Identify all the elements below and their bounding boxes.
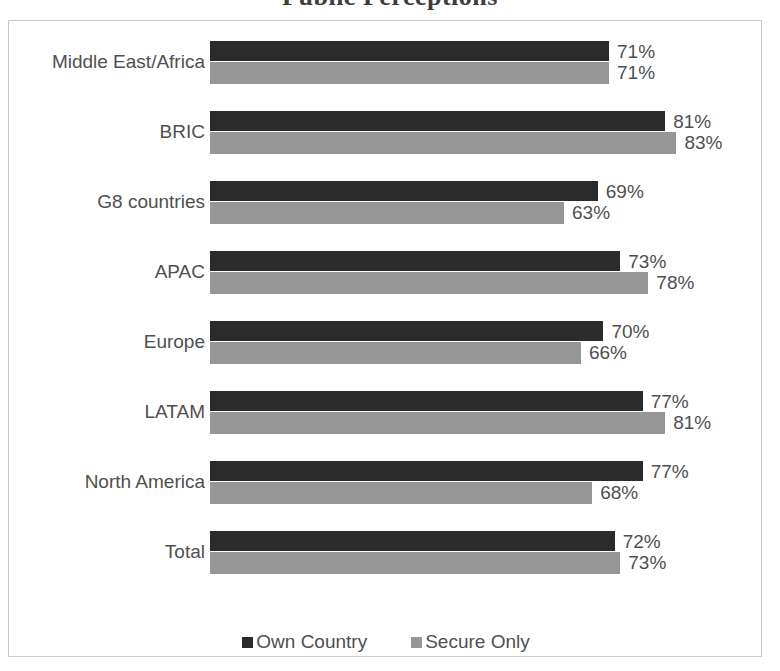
bar-value-label: 73% <box>620 552 666 574</box>
bar-own[interactable] <box>210 461 643 481</box>
bar-value-label: 66% <box>581 342 627 364</box>
bar-group: Total72%73% <box>9 530 763 594</box>
category-label: LATAM <box>9 390 205 434</box>
bar-own[interactable] <box>210 531 615 551</box>
bar-value-label: 81% <box>665 412 711 434</box>
bar-value-label: 71% <box>609 41 655 63</box>
bar-value-label: 70% <box>603 321 649 343</box>
bar-own[interactable] <box>210 321 603 341</box>
bar-own[interactable] <box>210 111 665 131</box>
bar-value-label: 73% <box>620 251 666 273</box>
bar-row-own: 71% <box>210 41 750 62</box>
bar-own[interactable] <box>210 251 620 271</box>
bar-row-secure: 78% <box>210 272 750 293</box>
bar-row-own: 70% <box>210 321 750 342</box>
bar-group: BRIC81%83% <box>9 110 763 174</box>
bar-group: LATAM77%81% <box>9 390 763 454</box>
bar-secure[interactable] <box>210 62 609 84</box>
bar-group: Middle East/Africa71%71% <box>9 40 763 104</box>
category-label: North America <box>9 460 205 504</box>
bar-secure[interactable] <box>210 342 581 364</box>
bar-value-label: 77% <box>643 391 689 413</box>
category-label: Middle East/Africa <box>9 40 205 84</box>
bar-value-label: 78% <box>648 272 694 294</box>
legend-item-own-country[interactable]: Own Country <box>242 631 367 653</box>
bar-row-own: 73% <box>210 251 750 272</box>
legend-label-secure-only: Secure Only <box>425 631 530 653</box>
bar-row-own: 81% <box>210 111 750 132</box>
bar-group: APAC73%78% <box>9 250 763 314</box>
bar-value-label: 69% <box>598 181 644 203</box>
legend-swatch-icon-secure-only <box>411 637 422 648</box>
bar-row-secure: 68% <box>210 482 750 503</box>
legend-label-own-country: Own Country <box>256 631 367 653</box>
bar-row-secure: 81% <box>210 412 750 433</box>
bar-secure[interactable] <box>210 552 620 574</box>
bar-value-label: 71% <box>609 62 655 84</box>
bar-value-label: 77% <box>643 461 689 483</box>
bar-value-label: 83% <box>676 132 722 154</box>
bar-group: North America77%68% <box>9 460 763 524</box>
category-label: Europe <box>9 320 205 364</box>
bar-row-own: 77% <box>210 461 750 482</box>
category-label: G8 countries <box>9 180 205 224</box>
bar-secure[interactable] <box>210 132 676 154</box>
bar-value-label: 68% <box>592 482 638 504</box>
plot-area: Middle East/Africa71%71%BRIC81%83%G8 cou… <box>8 20 762 657</box>
category-label: APAC <box>9 250 205 294</box>
legend-item-secure-only[interactable]: Secure Only <box>411 631 530 653</box>
category-label: Total <box>9 530 205 574</box>
bar-value-label: 72% <box>615 531 661 553</box>
bar-row-secure: 83% <box>210 132 750 153</box>
chart-legend: Own Country Secure Only <box>9 625 763 659</box>
bar-secure[interactable] <box>210 202 564 224</box>
bar-value-label: 81% <box>665 111 711 133</box>
bar-row-own: 69% <box>210 181 750 202</box>
bar-value-label: 63% <box>564 202 610 224</box>
bar-own[interactable] <box>210 41 609 61</box>
bar-secure[interactable] <box>210 412 665 434</box>
bar-secure[interactable] <box>210 272 648 294</box>
bar-group: Europe70%66% <box>9 320 763 384</box>
bar-row-secure: 71% <box>210 62 750 83</box>
bar-row-own: 77% <box>210 391 750 412</box>
chart-title: Public Perceptions <box>0 0 780 12</box>
bar-row-secure: 63% <box>210 202 750 223</box>
bar-secure[interactable] <box>210 482 592 504</box>
bar-row-secure: 66% <box>210 342 750 363</box>
category-label: BRIC <box>9 110 205 154</box>
bar-row-own: 72% <box>210 531 750 552</box>
bar-own[interactable] <box>210 181 598 201</box>
legend-swatch-icon-own-country <box>242 637 253 648</box>
bar-row-secure: 73% <box>210 552 750 573</box>
bar-own[interactable] <box>210 391 643 411</box>
bar-group: G8 countries69%63% <box>9 180 763 244</box>
chart-root: Public Perceptions Middle East/Africa71%… <box>0 0 780 671</box>
